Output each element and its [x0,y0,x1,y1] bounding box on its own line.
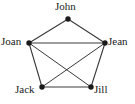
graph-edge [29,19,68,43]
graph-edge [42,43,105,87]
graph-edge [29,43,91,87]
graph-edge [68,19,105,43]
graph-edge [91,43,105,87]
node-label-jill: Jill [94,84,107,95]
node-label-jack: Jack [15,84,35,95]
graph-diagram: John Joan Jean Jack Jill [0,0,135,104]
graph-node-john [65,16,70,21]
edge-layer [29,19,105,87]
node-layer [26,16,107,89]
graph-node-joan [26,40,31,45]
graph-node-jill [88,84,93,89]
node-label-joan: Joan [1,36,21,47]
node-label-jean: Jean [108,36,128,47]
graph-node-jack [39,84,44,89]
node-label-john: John [55,1,76,12]
graph-node-jean [102,40,107,45]
graph-edge [29,43,42,87]
